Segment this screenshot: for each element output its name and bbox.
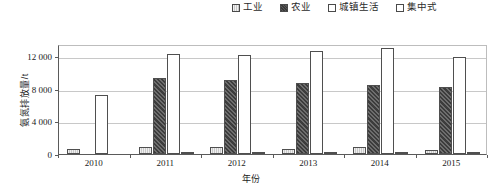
plot-area bbox=[58, 45, 487, 155]
bar-industry bbox=[67, 149, 80, 154]
x-axis-tick-mark bbox=[487, 155, 488, 158]
x-axis-tick-mark bbox=[416, 155, 417, 158]
y-axis-tick-label: 4 000 bbox=[32, 118, 52, 127]
x-axis-tick-label: 2013 bbox=[299, 158, 317, 168]
bar-industry bbox=[139, 147, 152, 154]
bar-group-2013 bbox=[274, 46, 346, 154]
legend-swatch-industry-icon bbox=[232, 4, 240, 12]
bar-centralized bbox=[395, 152, 408, 154]
legend-label-centralized: 集中式 bbox=[407, 3, 437, 13]
bar-urban-domestic bbox=[310, 51, 323, 154]
x-axis-tick-mark bbox=[201, 155, 202, 158]
bar-industry bbox=[210, 147, 223, 154]
legend-item-centralized: 集中式 bbox=[396, 3, 437, 13]
legend-item-urban-domestic: 城镇生活 bbox=[328, 3, 379, 13]
bar-agriculture bbox=[439, 87, 452, 154]
x-axis-tick-mark bbox=[273, 155, 274, 158]
x-axis-tick-label: 2011 bbox=[156, 158, 174, 168]
bar-urban-domestic bbox=[238, 55, 251, 154]
chart-legend: 工业 农业 城镇生活 集中式 bbox=[232, 3, 437, 13]
legend-label-agriculture: 农业 bbox=[291, 3, 311, 13]
bar-group-2010 bbox=[59, 46, 131, 154]
bar-urban-domestic bbox=[95, 95, 108, 154]
bar-centralized bbox=[467, 152, 480, 154]
bar-chart: 工业 农业 城镇生活 集中式 氨氮排放量/t 04 0008 00012 000… bbox=[0, 0, 501, 196]
legend-label-industry: 工业 bbox=[243, 3, 263, 13]
legend-item-industry: 工业 bbox=[232, 3, 263, 13]
y-axis-tick-mark bbox=[55, 90, 58, 91]
legend-label-urban-domestic: 城镇生活 bbox=[339, 3, 379, 13]
bar-agriculture bbox=[367, 85, 380, 154]
y-axis-tick-mark bbox=[55, 155, 58, 156]
bar-group-2011 bbox=[131, 46, 203, 154]
bar-agriculture bbox=[224, 80, 237, 154]
y-axis-tick-mark bbox=[55, 57, 58, 58]
bar-centralized bbox=[181, 152, 194, 154]
x-axis-tick-mark bbox=[130, 155, 131, 158]
y-axis-tick-label: 12 000 bbox=[27, 53, 52, 62]
bar-urban-domestic bbox=[453, 57, 466, 154]
legend-swatch-centralized-icon bbox=[396, 4, 404, 12]
bar-centralized bbox=[324, 152, 337, 154]
bar-urban-domestic bbox=[167, 54, 180, 154]
bar-group-2012 bbox=[202, 46, 274, 154]
x-axis-tick-label: 2012 bbox=[228, 158, 246, 168]
bar-industry bbox=[282, 149, 295, 154]
legend-swatch-urban-domestic-icon bbox=[328, 4, 336, 12]
bar-agriculture bbox=[153, 78, 166, 154]
y-axis-tick-mark bbox=[55, 122, 58, 123]
x-axis-tick-mark bbox=[58, 155, 59, 158]
legend-swatch-agriculture-icon bbox=[280, 4, 288, 12]
y-axis-tick-labels: 04 0008 00012 000 bbox=[0, 0, 56, 196]
bar-group-2014 bbox=[345, 46, 417, 154]
x-axis-tick-mark bbox=[344, 155, 345, 158]
x-axis-title: 年份 bbox=[0, 172, 501, 185]
y-axis-tick-label: 8 000 bbox=[32, 85, 52, 94]
x-axis-tick-label: 2015 bbox=[442, 158, 460, 168]
bar-agriculture bbox=[296, 83, 309, 154]
bar-industry bbox=[353, 147, 366, 154]
bar-urban-domestic bbox=[381, 48, 394, 154]
bar-industry bbox=[425, 150, 438, 154]
bar-centralized bbox=[252, 152, 265, 154]
x-axis-tick-label: 2010 bbox=[85, 158, 103, 168]
bar-group-2015 bbox=[417, 46, 489, 154]
y-axis-tick-label: 0 bbox=[48, 151, 53, 160]
legend-item-agriculture: 农业 bbox=[280, 3, 311, 13]
x-axis-tick-label: 2014 bbox=[371, 158, 389, 168]
